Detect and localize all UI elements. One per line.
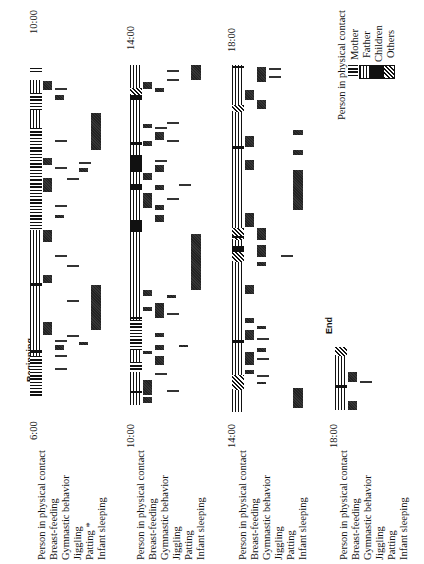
- segment-gray: [43, 158, 52, 165]
- segment-gray: [293, 170, 303, 210]
- segment-line: [167, 70, 179, 72]
- segment-children: [30, 350, 42, 353]
- segment-line: [257, 338, 269, 340]
- end-marker: End: [324, 317, 335, 334]
- segment-line: [67, 265, 79, 267]
- segment-line: [269, 76, 281, 78]
- segment-line: [55, 368, 67, 370]
- segment-gray: [155, 345, 164, 350]
- segment-gray: [257, 348, 266, 352]
- legend-label-father: Father: [361, 31, 372, 58]
- segment-gray: [257, 67, 266, 76]
- segment-gray: [143, 173, 152, 180]
- segment-children: [130, 142, 142, 145]
- row-label: Jiggling: [72, 526, 83, 560]
- segment-children: [232, 340, 244, 343]
- row-label: Patting: [285, 530, 296, 560]
- row-label: Breast-feeding: [147, 498, 158, 560]
- segment-line: [67, 178, 79, 180]
- segment-gray: [143, 307, 152, 311]
- segment-gray: [143, 397, 152, 403]
- row-label: Infant sleeping: [195, 497, 206, 560]
- segment-gray: [245, 160, 254, 170]
- segment-gray: [143, 380, 152, 395]
- row-label: Infant sleeping: [398, 497, 409, 560]
- segment-line: [55, 340, 67, 342]
- segment-gray: [155, 215, 164, 222]
- segment-father: [30, 230, 42, 345]
- row-label: Infant sleeping: [96, 497, 107, 560]
- segment-gray: [179, 345, 188, 347]
- segment-line: [167, 79, 179, 81]
- segment-gray: [155, 356, 164, 365]
- segment-gray: [143, 82, 152, 89]
- segment-gray: [55, 215, 64, 218]
- row-label: Person in physical contact: [338, 450, 349, 560]
- segment-gray: [143, 141, 152, 146]
- segment-gray: [245, 330, 254, 340]
- segment-gray: [257, 76, 266, 82]
- segment-line: [360, 381, 372, 383]
- segment-gray: [257, 326, 266, 329]
- segment-gray: [143, 193, 152, 208]
- segment-gray: [257, 228, 266, 240]
- activity-timeline-chart: 6:00 10:00 Person in physical contact Br…: [0, 0, 424, 564]
- segment-children: [130, 95, 142, 100]
- segment-gray: [155, 88, 164, 92]
- segment-line: [167, 198, 179, 200]
- segment-line: [257, 358, 269, 360]
- segment-gray: [91, 113, 101, 150]
- segment-line: [79, 162, 91, 164]
- row-label: Infant sleeping: [297, 497, 308, 560]
- row-label: Gymnastic behavior: [159, 475, 170, 560]
- segment-line: [55, 205, 67, 207]
- row-label: Person in physical contact: [237, 450, 248, 560]
- segment-gray: [257, 100, 266, 109]
- segment-children: [130, 155, 142, 172]
- segment-father: [30, 80, 42, 93]
- segment-children: [232, 236, 244, 238]
- segment-line: [269, 68, 281, 70]
- legend-swatch-others: [383, 65, 395, 79]
- segment-line: [179, 184, 191, 186]
- segment-gray: [155, 185, 164, 190]
- segment-gray: [245, 370, 254, 374]
- segment-gray: [245, 213, 254, 227]
- segment-gray: [348, 372, 357, 382]
- time-label-start: 6:00: [28, 421, 39, 440]
- time-label-start: 14:00: [226, 424, 237, 448]
- segment-gray: [79, 168, 88, 172]
- segment-line: [167, 140, 179, 142]
- time-label-end: 14:00: [125, 26, 136, 50]
- segment-line: [167, 122, 179, 124]
- legend-title: Person in physical contact: [336, 10, 347, 120]
- segment-line: [167, 313, 179, 315]
- segment-mother: [30, 128, 42, 180]
- segment-line: [281, 255, 293, 257]
- segment-others: [130, 88, 142, 95]
- segment-mother: [30, 68, 42, 72]
- segment-others: [232, 228, 244, 240]
- segment-line: [155, 160, 167, 162]
- segment-line: [67, 300, 79, 302]
- segment-children: [30, 283, 42, 286]
- segment-line: [167, 390, 179, 392]
- segment-gray: [191, 65, 201, 80]
- segment-others: [232, 252, 244, 262]
- segment-gray: [43, 275, 52, 283]
- segment-gray: [43, 230, 52, 242]
- segment-gray: [43, 178, 52, 192]
- segment-line: [55, 355, 67, 357]
- time-label-start: 10:00: [125, 424, 136, 448]
- segment-gray: [143, 124, 152, 128]
- segment-others: [232, 375, 244, 390]
- legend-swatch-father: [359, 65, 371, 79]
- segment-gray: [191, 234, 201, 290]
- segment-line: [55, 140, 67, 142]
- segment-children: [335, 385, 347, 388]
- segment-others: [335, 347, 347, 356]
- segment-father: [335, 352, 347, 410]
- legend-label-children: Children: [373, 25, 384, 62]
- row-label: Jiggling: [171, 526, 182, 560]
- row-label: Breast-feeding: [48, 498, 59, 560]
